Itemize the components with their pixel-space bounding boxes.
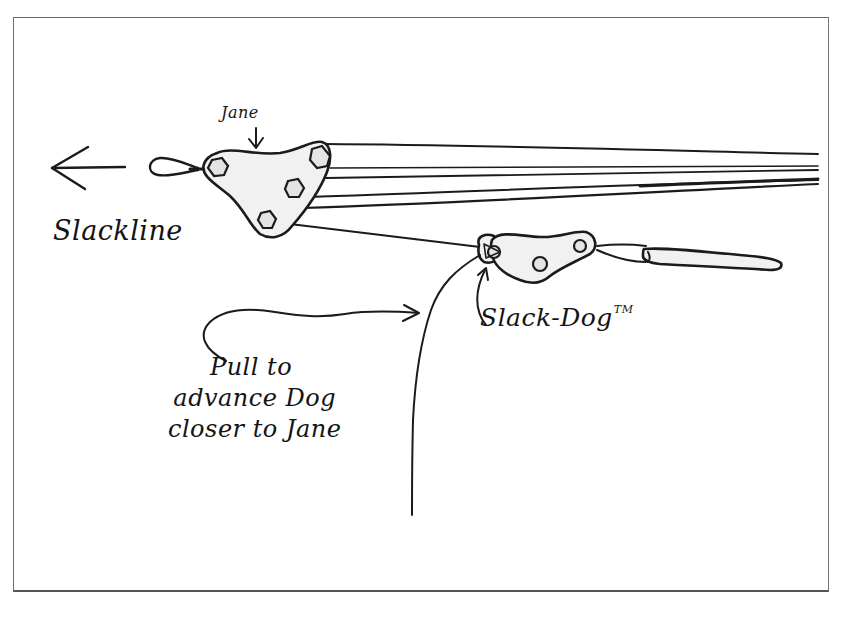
sketch-drawing [0,0,848,617]
slack-dog-name: Slack-Dog [480,303,613,332]
trademark-mark: TM [614,303,634,316]
jane-to-dog-line [290,224,480,247]
diagram-canvas: Jane Slackline Slack-DogTM Pull to advan… [0,0,848,617]
instruction-line-1: Pull to [210,352,342,383]
instruction-line-3: closer to Jane [168,414,342,445]
left-arrow-icon [52,147,125,189]
anchor-pin [643,248,782,270]
jane-label: Jane [221,103,259,122]
slack-dog-plate [478,232,595,283]
pull-instruction: Pull to advance Dog closer to Jane [168,352,342,445]
jane-pointer-arrow-icon [249,128,263,148]
slackline-loop [150,158,205,176]
jane-pulley-plate [203,142,330,238]
slackline-label: Slackline [53,215,183,246]
slack-dog-label: Slack-DogTM [480,303,633,332]
instruction-line-2: advance Dog [168,383,342,414]
dog-to-pin-rope [597,245,646,263]
pulley-rope-strands [302,144,818,208]
pull-rope [412,255,480,515]
